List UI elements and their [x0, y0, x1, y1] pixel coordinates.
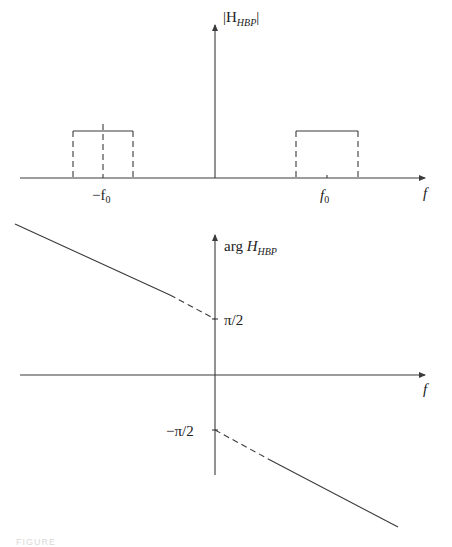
magnitude-plot: |HHBP| −f0 f0 f	[20, 9, 429, 205]
left-passband	[73, 124, 133, 178]
bandpass-figure: |HHBP| −f0 f0 f arg HHBP π/2 −π/2	[0, 0, 452, 547]
phase-branch-negative-f	[15, 224, 215, 319]
right-passband	[296, 131, 358, 178]
bottom-y-label: arg HHBP	[224, 238, 277, 257]
figure-caption: FIGURE	[16, 537, 56, 547]
top-x-label: f	[423, 185, 429, 201]
phase-branch-positive-f	[215, 430, 398, 527]
neg-f0-label: −f0	[92, 187, 110, 205]
pos-f0-label: f0	[320, 187, 329, 205]
pi-half-label: π/2	[224, 312, 243, 328]
bottom-x-label: f	[423, 381, 429, 397]
top-y-label: |HHBP|	[223, 9, 259, 28]
phase-plot: arg HHBP π/2 −π/2 f	[15, 224, 429, 527]
neg-pi-half-label: −π/2	[166, 423, 194, 439]
